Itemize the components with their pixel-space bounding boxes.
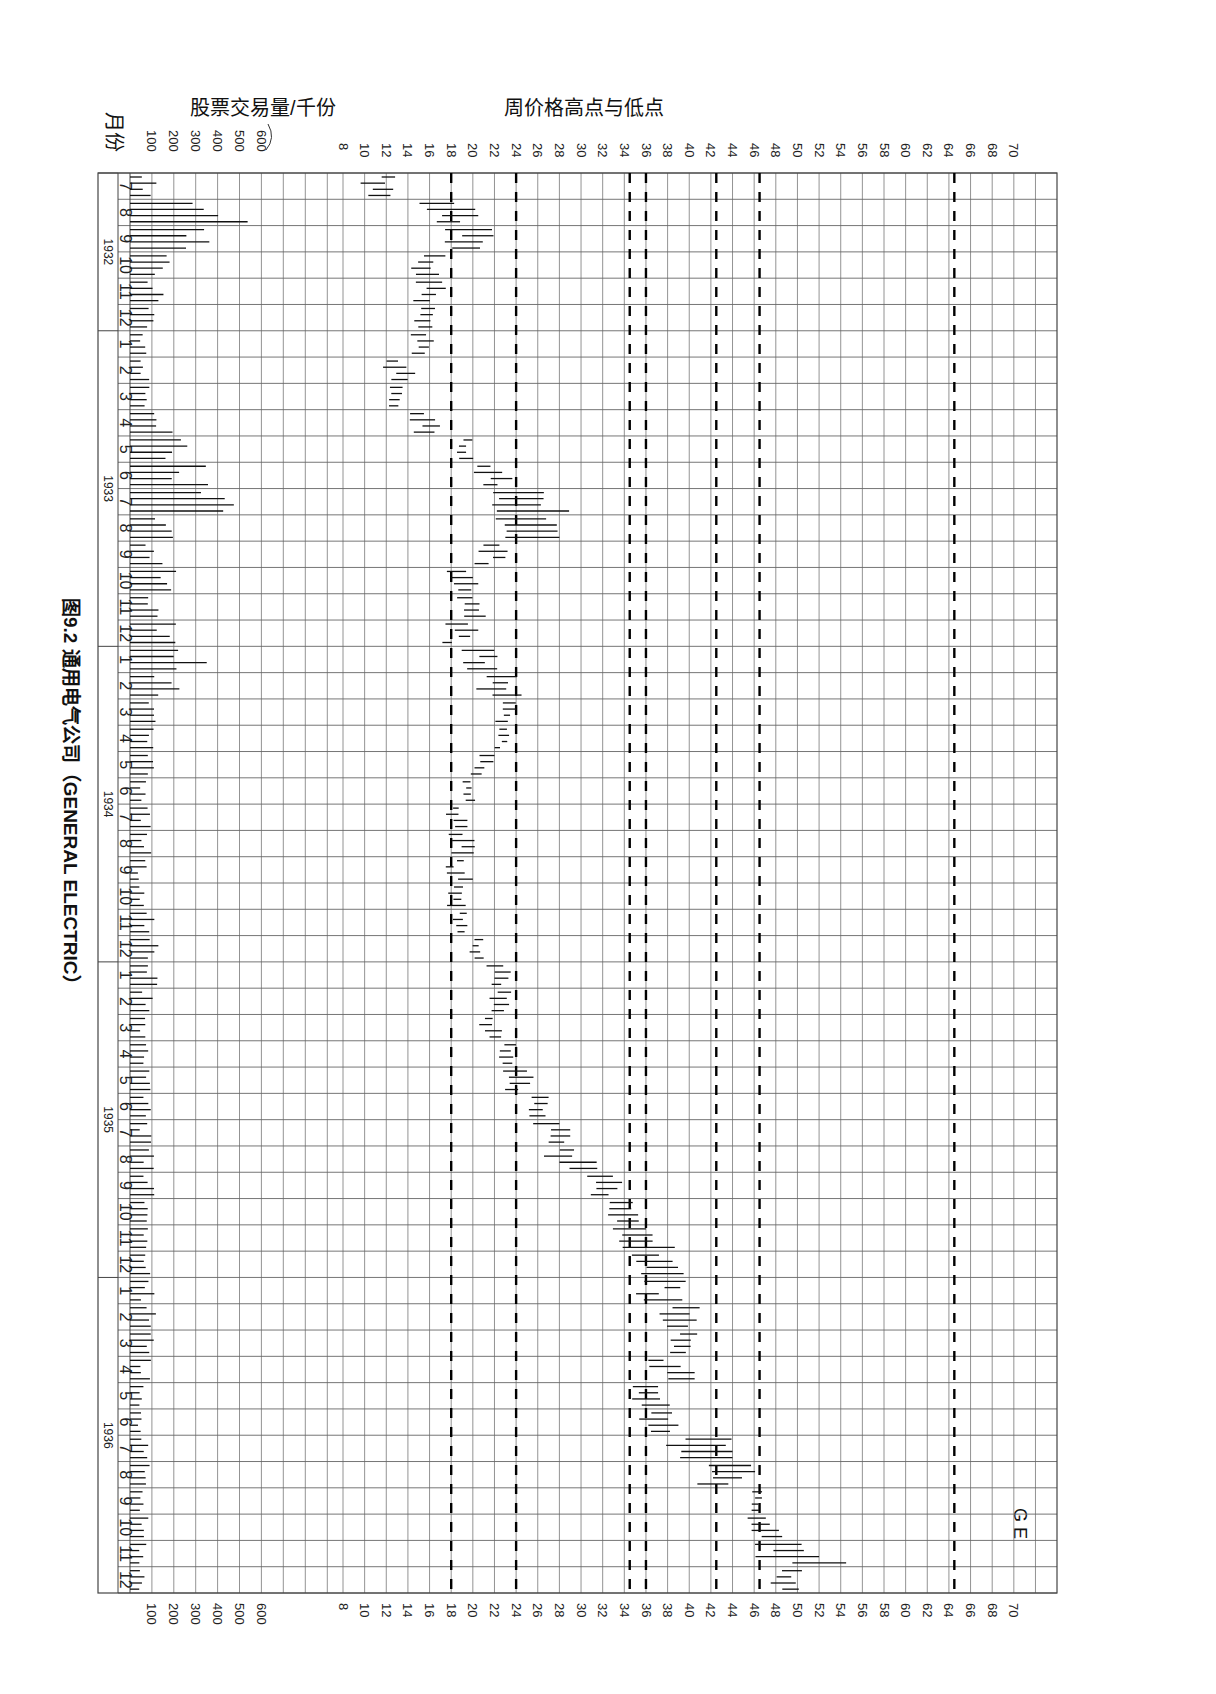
price-tick-label: 48 — [768, 1603, 783, 1617]
month-label: 11 — [117, 283, 134, 300]
plot-area: 1932193319341935193678910111212345678910… — [0, 0, 1216, 1694]
year-label: 1932 — [101, 239, 115, 266]
price-tick-label: 14 — [400, 1603, 415, 1617]
price-tick-label: 62 — [920, 143, 935, 157]
price-tick-label: 10 — [357, 143, 372, 157]
price-tick-label: 48 — [768, 143, 783, 157]
price-tick-label: 40 — [682, 143, 697, 157]
price-tick-label: 70 — [1006, 1603, 1021, 1617]
price-tick-label: 42 — [703, 1603, 718, 1617]
price-tick-label: 36 — [639, 1603, 654, 1617]
price-tick-label: 56 — [855, 1603, 870, 1617]
price-tick-label: 66 — [963, 1603, 978, 1617]
price-tick-label: 68 — [985, 1603, 1000, 1617]
price-tick-label: 24 — [509, 143, 524, 157]
price-tick-label: 44 — [725, 143, 740, 157]
price-tick-label: 12 — [379, 1603, 394, 1617]
price-tick-label: 34 — [617, 1603, 632, 1617]
price-tick-label: 12 — [379, 143, 394, 157]
price-tick-label: 52 — [812, 1603, 827, 1617]
price-tick-label: 50 — [790, 143, 805, 157]
price-tick-label: 36 — [639, 143, 654, 157]
month-label: 10 — [117, 1203, 134, 1221]
month-label: 12 — [117, 940, 134, 958]
volume-tick-label: 200 — [166, 130, 181, 152]
volume-tick-label: 100 — [144, 130, 159, 152]
year-label: 1933 — [101, 475, 115, 502]
year-label: 1936 — [101, 1422, 115, 1449]
price-tick-label: 38 — [660, 1603, 675, 1617]
price-tick-label: 60 — [898, 1603, 913, 1617]
month-label: 12 — [117, 624, 134, 642]
month-label: 10 — [117, 1518, 134, 1536]
price-tick-label: 20 — [465, 1603, 480, 1617]
volume-tick-label: 500 — [232, 1603, 247, 1625]
price-tick-label: 58 — [877, 143, 892, 157]
price-tick-label: 64 — [941, 1603, 956, 1617]
price-tick-label: 42 — [703, 143, 718, 157]
price-tick-label: 56 — [855, 143, 870, 157]
price-tick-label: 68 — [985, 143, 1000, 157]
volume-tick-label: 300 — [188, 1603, 203, 1625]
price-tick-label: 26 — [530, 143, 545, 157]
year-label: 1934 — [101, 791, 115, 818]
price-tick-label: 46 — [747, 1603, 762, 1617]
month-label: 12 — [117, 309, 134, 327]
price-tick-label: 62 — [920, 1603, 935, 1617]
price-tick-label: 16 — [422, 143, 437, 157]
price-tick-label: 16 — [422, 1603, 437, 1617]
price-tick-label: 64 — [941, 143, 956, 157]
price-tick-label: 18 — [444, 143, 459, 157]
price-tick-label: 38 — [660, 143, 675, 157]
month-label: 11 — [117, 914, 134, 931]
price-tick-label: 34 — [617, 143, 632, 157]
month-label: 10 — [117, 572, 134, 590]
price-tick-label: 70 — [1006, 143, 1021, 157]
price-tick-label: 14 — [400, 143, 415, 157]
volume-tick-label: 200 — [166, 1603, 181, 1625]
price-tick-label: 54 — [833, 1603, 848, 1617]
price-tick-label: 22 — [487, 143, 502, 157]
price-tick-label: 28 — [552, 1603, 567, 1617]
month-label: 12 — [117, 1255, 134, 1273]
volume-tick-label: 300 — [188, 130, 203, 152]
month-label: 11 — [117, 599, 134, 616]
price-tick-label: 32 — [595, 1603, 610, 1617]
price-tick-label: 50 — [790, 1603, 805, 1617]
price-tick-label: 52 — [812, 143, 827, 157]
volume-tick-label: 400 — [210, 1603, 225, 1625]
price-tick-label: 60 — [898, 143, 913, 157]
price-tick-label: 40 — [682, 1603, 697, 1617]
price-tick-label: 24 — [509, 1603, 524, 1617]
price-tick-label: 8 — [336, 143, 351, 150]
volume-tick-label: 500 — [232, 130, 247, 152]
volume-tick-label: 600 — [254, 1603, 269, 1625]
price-tick-label: 58 — [877, 1603, 892, 1617]
volume-tick-label: 100 — [144, 1603, 159, 1625]
price-tick-label: 28 — [552, 143, 567, 157]
price-tick-label: 30 — [574, 1603, 589, 1617]
price-tick-label: 22 — [487, 1603, 502, 1617]
price-tick-label: 66 — [963, 143, 978, 157]
price-tick-label: 10 — [357, 1603, 372, 1617]
month-label: 11 — [117, 1545, 134, 1562]
price-tick-label: 44 — [725, 1603, 740, 1617]
month-label: 10 — [117, 887, 134, 905]
volume-tick-label: 400 — [210, 130, 225, 152]
price-tick-label: 26 — [530, 1603, 545, 1617]
price-tick-label: 20 — [465, 143, 480, 157]
price-tick-label: 32 — [595, 143, 610, 157]
price-tick-label: 18 — [444, 1603, 459, 1617]
month-label: 12 — [117, 1571, 134, 1589]
year-label: 1935 — [101, 1106, 115, 1133]
month-label: 10 — [117, 256, 134, 274]
stock-chart: 股票交易量/千份 周价格高点与低点 月份 图9.2 通用电气公司（GENERAL… — [0, 0, 1216, 1694]
price-tick-label: 30 — [574, 143, 589, 157]
price-tick-label: 8 — [336, 1603, 351, 1610]
price-tick-label: 46 — [747, 143, 762, 157]
price-tick-label: 54 — [833, 143, 848, 157]
month-label: 11 — [117, 1230, 134, 1247]
